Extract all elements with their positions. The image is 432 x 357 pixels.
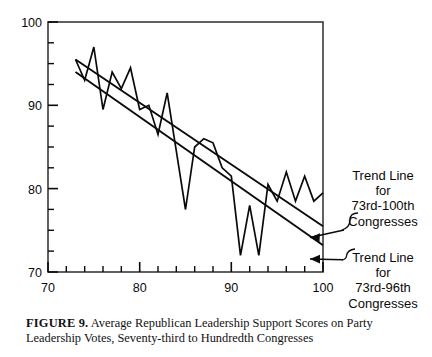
figure-container: 100 90 80 70 70 80 90 100 Trend Line for… <box>0 0 432 357</box>
y-tick-label-90: 90 <box>28 99 42 113</box>
y-tick-label-100: 100 <box>21 16 42 30</box>
annotation-top-line2: for <box>336 183 430 198</box>
annotation-bottom-line3: 73rd-96th <box>336 280 430 295</box>
figure-caption: FIGURE 9. Average Republican Leadership … <box>26 316 412 346</box>
plot-frame <box>48 22 323 272</box>
x-tick-label-90: 90 <box>224 281 238 295</box>
annotation-top-line3: 73rd-100th <box>336 198 430 213</box>
trend-line-96th-annotation: Trend Line for 73rd-96th Congresses <box>336 250 430 311</box>
annotation-bottom-line1: Trend Line <box>336 250 430 265</box>
annotation-bottom-line2: for <box>336 265 430 280</box>
annotation-top-line4: Congresses <box>336 214 430 229</box>
x-tick-label-70: 70 <box>41 281 55 295</box>
annotation-bottom-line4: Congresses <box>336 296 430 311</box>
annotation-top-line1: Trend Line <box>336 168 430 183</box>
figure-number-label: FIGURE 9. <box>26 316 88 330</box>
y-tick-label-80: 80 <box>28 183 42 197</box>
x-tick-label-80: 80 <box>133 281 147 295</box>
x-tick-label-100: 100 <box>313 281 334 295</box>
trend-line-100th-annotation: Trend Line for 73rd-100th Congresses <box>336 168 430 229</box>
y-tick-label-70: 70 <box>28 266 42 280</box>
